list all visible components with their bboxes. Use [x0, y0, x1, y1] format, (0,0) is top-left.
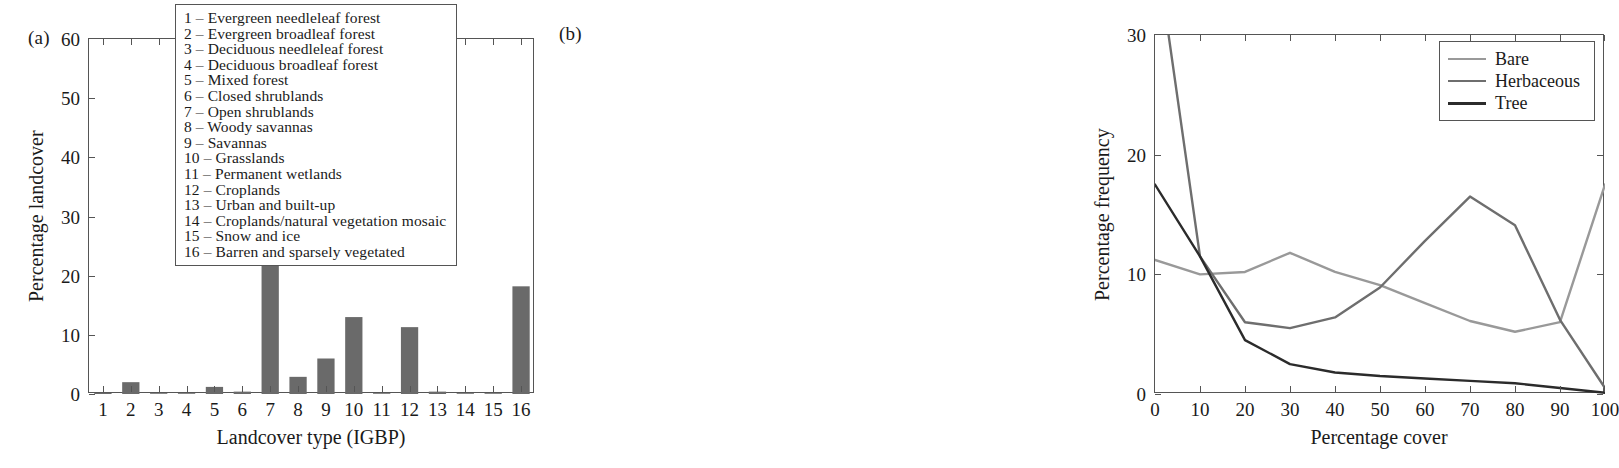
legend-item: 11 – Permanent wetlands [184, 166, 446, 182]
panel-a-x-tick-label: 15 [484, 392, 503, 419]
legend-item: 9 – Savannas [184, 135, 446, 151]
panel-b-x-tick-mark [1200, 35, 1201, 41]
panel-b-y-tick-mark [1155, 274, 1161, 275]
panel-b-x-tick-mark [1515, 35, 1516, 41]
panel-a-y-tick-label: 40 [61, 148, 89, 167]
panel-a-x-tick-label: 14 [456, 392, 475, 419]
landcover-legend: 1 – Evergreen needleleaf forest2 – Everg… [175, 4, 457, 266]
panel-a-x-tick-mark [326, 386, 327, 392]
panel-b-label: (b) [559, 23, 582, 45]
legend-item: 10 – Grasslands [184, 150, 446, 166]
panel-a-y-tick-label: 60 [61, 30, 89, 49]
legend-item-label: Tree [1495, 92, 1527, 114]
panel-b-y-tick-label: 30 [1127, 26, 1155, 45]
panel-a-y-tick-label: 10 [61, 325, 89, 344]
panel-b-x-tick-label: 0 [1150, 392, 1160, 419]
cover-type-legend: BareHerbaceousTree [1439, 41, 1595, 121]
panel-a-x-tick-label: 5 [210, 392, 220, 419]
legend-item: Tree [1448, 92, 1580, 114]
panel-b-x-tick-mark [1560, 35, 1561, 41]
panel-b-x-tick-mark [1604, 386, 1605, 392]
panel-a-x-tick-mark [382, 386, 383, 392]
panel-b-x-tick-mark [1515, 386, 1516, 392]
bar [512, 286, 529, 394]
panel-b-x-tick-mark [1200, 386, 1201, 392]
legend-item: Bare [1448, 48, 1580, 70]
line-chart-plot-area: Percentage frequency Percentage cover Ba… [1154, 34, 1604, 393]
panel-a-x-tick-mark [270, 386, 271, 392]
panel-a-x-tick-mark [465, 386, 466, 392]
panel-a-x-tick-mark [521, 386, 522, 392]
panel-a-x-tick-label: 7 [265, 392, 275, 419]
panel-b-x-tick-mark [1470, 35, 1471, 41]
panel-b-x-tick-label: 50 [1371, 392, 1390, 419]
legend-item: 1 – Evergreen needleleaf forest [184, 10, 446, 26]
panel-b-x-tick-mark [1425, 386, 1426, 392]
panel-a-x-tick-mark [103, 39, 104, 45]
legend-item: 4 – Deciduous broadleaf forest [184, 57, 446, 73]
panel-a-x-tick-label: 9 [321, 392, 331, 419]
panel-a-x-tick-mark [410, 386, 411, 392]
legend-item: 5 – Mixed forest [184, 72, 446, 88]
panel-b-y-tick-mark-right [1597, 274, 1603, 275]
panel-b-y-tick-label: 20 [1127, 145, 1155, 164]
panel-a-x-tick-mark [493, 39, 494, 45]
legend-item: 7 – Open shrublands [184, 104, 446, 120]
panel-a-x-tick-label: 3 [154, 392, 164, 419]
panel-a-x-tick-mark [521, 39, 522, 45]
panel-b-y-tick-label: 10 [1127, 265, 1155, 284]
panel-a-x-tick-label: 1 [98, 392, 108, 419]
panel-a-y-tick-label: 50 [61, 89, 89, 108]
panel-a-y-tick-label: 30 [61, 207, 89, 226]
panel-a-x-tick-mark [354, 386, 355, 392]
panel-a-x-tick-mark [159, 39, 160, 45]
panel-a-y-tick-mark [89, 98, 95, 99]
panel-b-x-tick-label: 40 [1326, 392, 1345, 419]
panel-b-x-tick-mark [1425, 35, 1426, 41]
line-bare [1155, 185, 1605, 332]
legend-item: 3 – Deciduous needleleaf forest [184, 41, 446, 57]
panel-a-y-tick-mark [89, 394, 95, 395]
panel-b-x-tick-mark [1380, 386, 1381, 392]
panel-a-y-tick-mark [89, 335, 95, 336]
panel-a-x-tick-mark [159, 386, 160, 392]
panel-a-x-tick-mark [493, 386, 494, 392]
panel-a-label: (a) [28, 27, 50, 49]
panel-a-x-tick-mark [131, 39, 132, 45]
bar [345, 317, 362, 394]
panel-b-y-axis-title: Percentage frequency [1091, 128, 1114, 301]
panel-a-x-axis-title: Landcover type (IGBP) [217, 426, 406, 449]
legend-line-swatch [1448, 102, 1486, 105]
panel-a-y-tick-label: 0 [71, 385, 90, 404]
panel-b-y-tick-mark-right [1597, 155, 1603, 156]
panel-a-y-tick-label: 20 [61, 266, 89, 285]
panel-a-x-tick-label: 12 [400, 392, 419, 419]
panel-b-x-tick-label: 100 [1591, 392, 1619, 419]
panel-a-x-tick-label: 16 [512, 392, 531, 419]
panel-b-x-tick-label: 30 [1281, 392, 1300, 419]
panel-a-x-tick-mark [214, 386, 215, 392]
panel-b-x-tick-label: 80 [1506, 392, 1525, 419]
panel-a-x-tick-mark [437, 386, 438, 392]
legend-item: 8 – Woody savannas [184, 119, 446, 135]
panel-a-x-tick-label: 13 [428, 392, 447, 419]
legend-line-swatch [1448, 58, 1486, 60]
legend-item: 12 – Croplands [184, 182, 446, 198]
panel-b-x-tick-label: 60 [1416, 392, 1435, 419]
panel-a-x-tick-label: 6 [238, 392, 248, 419]
panel-b-y-tick-mark [1155, 155, 1161, 156]
legend-item: 13 – Urban and built-up [184, 197, 446, 213]
legend-item: 2 – Evergreen broadleaf forest [184, 26, 446, 42]
panel-b-x-tick-mark [1290, 35, 1291, 41]
panel-a-x-tick-mark [465, 39, 466, 45]
legend-item: 15 – Snow and ice [184, 228, 446, 244]
panel-b-x-tick-label: 20 [1236, 392, 1255, 419]
panel-b-x-tick-mark [1560, 386, 1561, 392]
panel-b-x-tick-label: 90 [1551, 392, 1570, 419]
panel-a: (a) Percentage landcover Landcover type … [0, 0, 549, 468]
panel-b-x-tick-mark [1470, 386, 1471, 392]
panel-b-x-tick-label: 10 [1191, 392, 1210, 419]
panel-b-x-axis-title: Percentage cover [1310, 426, 1447, 449]
panel-a-x-tick-mark [187, 386, 188, 392]
legend-item: Herbaceous [1448, 70, 1580, 92]
